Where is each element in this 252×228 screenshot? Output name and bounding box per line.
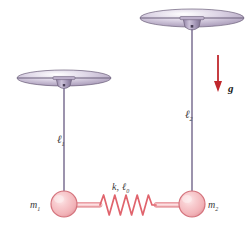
- spring-coil: [100, 195, 156, 215]
- label-gravity: g: [227, 82, 234, 94]
- gravity-arrow-head: [214, 81, 222, 92]
- ceiling-mount-pin-2: [191, 25, 194, 28]
- coupling-spring-assembly: [74, 195, 182, 215]
- label-mass-1: m1: [30, 199, 40, 212]
- label-spring-params: k,ℓ0: [112, 181, 129, 194]
- ceiling-mount-plate-1: [53, 77, 75, 80]
- physics-figure-coupled-pendulums: ℓ1 ℓ2 m1 m2 k,ℓ0 g: [0, 0, 252, 228]
- label-mass-2: m2: [208, 199, 218, 212]
- mass-2-sphere: [179, 191, 205, 217]
- mass-bob-1: [51, 191, 77, 217]
- ceiling-mount-pin-1: [63, 84, 65, 86]
- mass-bob-2: [179, 191, 205, 217]
- mass-2-highlight: [182, 195, 192, 203]
- diagram-canvas: ℓ1 ℓ2 m1 m2 k,ℓ0 g: [0, 0, 252, 228]
- spring-rod-right: [154, 203, 182, 208]
- mass-1-sphere: [51, 191, 77, 217]
- ceiling-support-2: [140, 9, 244, 30]
- ceiling-support-1: [17, 70, 111, 89]
- gravity-vector: [214, 55, 222, 92]
- mass-1-highlight: [54, 195, 64, 203]
- ceiling-mount-plate-2: [180, 17, 204, 20]
- spring-rod-left: [74, 203, 102, 208]
